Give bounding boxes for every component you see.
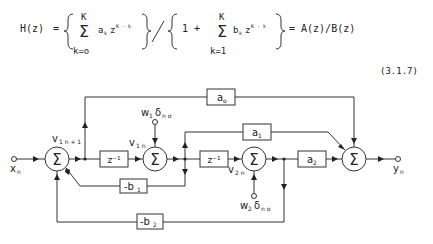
w1-label: w [141, 107, 149, 118]
svg-text:1 n + 1: 1 n + 1 [59, 138, 81, 145]
eq-equals: = [53, 23, 59, 34]
svg-text:-b: -b [140, 216, 150, 227]
svg-text:2: 2 [313, 159, 317, 166]
svg-text:-b: -b [124, 181, 134, 192]
svg-text:K - k: K - k [116, 23, 131, 29]
svg-text:1 n: 1 n [136, 142, 146, 149]
coef-a0-block: a o [207, 89, 235, 105]
eq-lhs: H(z) [20, 23, 44, 34]
svg-text:Σ: Σ [349, 151, 358, 169]
svg-text:n: n [400, 168, 404, 175]
left-brace-icon [168, 14, 177, 49]
input-label: x [10, 163, 16, 174]
svg-text:o: o [223, 97, 227, 104]
filter-diagram-figure: H(z) = K Σ k=o a k z K - k 1 + K Σ k=1 b… [0, 0, 433, 244]
transfer-function-equation: H(z) = K Σ k=o a k z K - k 1 + K Σ k=1 b… [20, 12, 418, 76]
svg-text:1: 1 [137, 186, 141, 193]
v1n-label: v [129, 137, 135, 148]
den-term-b: b [233, 25, 238, 35]
left-brace-icon [64, 14, 73, 49]
delay-block-2: z⁻¹ [200, 151, 228, 167]
den-sum-bottom: k=1 [210, 46, 226, 56]
v1n1-label: v [52, 133, 58, 144]
coef-a1-block: a 1 [243, 124, 271, 140]
sum-junction-4: Σ [342, 147, 366, 171]
junction-node [282, 157, 285, 160]
output-terminal [396, 157, 401, 162]
delay-block-1: z⁻¹ [100, 151, 128, 167]
svg-text:k: k [239, 30, 242, 36]
den-one: 1 + [182, 23, 200, 34]
svg-text:δ: δ [155, 107, 161, 118]
coef-b1-block: -b 1 [120, 179, 147, 193]
num-sigma: Σ [79, 22, 89, 41]
svg-text:Σ: Σ [150, 151, 159, 169]
den-sum-top: K [219, 12, 225, 22]
coef-a2-block: a 2 [298, 151, 326, 167]
svg-text:δ: δ [254, 200, 260, 211]
den-sigma: Σ [217, 22, 227, 41]
v2n-label: v [228, 164, 234, 175]
sum-junction-2: Σ [143, 147, 167, 171]
den-term-z: z [245, 25, 250, 35]
junction-node [83, 157, 86, 160]
division-slash-icon [152, 21, 164, 42]
svg-text:n o: n o [162, 112, 172, 119]
svg-text:Σ: Σ [249, 151, 258, 169]
num-sum-bottom: k=o [73, 46, 89, 56]
input-terminal [12, 157, 17, 162]
w2-label: w [240, 200, 248, 211]
svg-text:z⁻¹: z⁻¹ [107, 155, 120, 165]
svg-text:1: 1 [149, 112, 153, 119]
svg-text:n: n [17, 168, 21, 175]
svg-text:2: 2 [248, 205, 252, 212]
svg-text:K - k: K - k [251, 23, 266, 29]
svg-text:k: k [104, 30, 107, 36]
svg-text:2 n: 2 n [235, 169, 245, 176]
w2-terminal [252, 194, 257, 199]
num-term-a: a [98, 25, 103, 35]
coef-b2-block: -b 2 [137, 214, 163, 229]
svg-text:1: 1 [258, 132, 262, 139]
junction-node [183, 157, 186, 160]
num-term-z: z [110, 25, 115, 35]
equation-number: (3.1.7) [380, 66, 418, 76]
right-brace-icon [142, 14, 151, 49]
sum-junction-1: Σ [45, 147, 69, 171]
sum-junction-3: Σ [242, 147, 266, 171]
svg-text:z⁻¹: z⁻¹ [207, 155, 220, 165]
num-sum-top: K [81, 12, 87, 22]
output-label: y [393, 163, 399, 174]
eq-rhs: = A(z)/B(z) [289, 23, 355, 34]
svg-text:2: 2 [153, 221, 157, 228]
right-brace-icon [276, 14, 285, 49]
svg-text:n o: n o [261, 205, 271, 212]
w1-terminal [153, 120, 158, 125]
svg-text:Σ: Σ [52, 151, 61, 169]
